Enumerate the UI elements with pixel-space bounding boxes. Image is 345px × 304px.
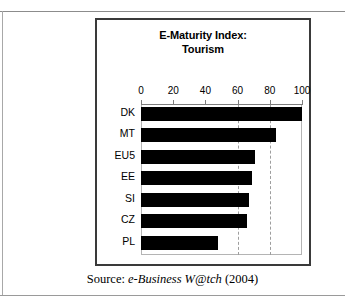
source-prefix: Source: xyxy=(87,272,125,286)
bar-si xyxy=(141,193,249,207)
source-year: (2004) xyxy=(225,272,258,286)
bar-ee xyxy=(141,171,252,185)
page-top-rule xyxy=(0,11,345,12)
bar-pl xyxy=(141,236,218,250)
category-label-si: SI xyxy=(125,192,135,204)
chart-title-line1: E-Maturity Index: xyxy=(159,29,247,41)
category-label-dk: DK xyxy=(120,106,135,118)
source-caption: Source: e-Business W@tch (2004) xyxy=(0,272,345,287)
x-tick-label: 80 xyxy=(264,85,275,96)
bar-eu5 xyxy=(141,150,255,164)
bar-row: EE xyxy=(141,168,302,189)
chart-figure-box: E-Maturity Index: Tourism 020406080100 D… xyxy=(95,18,311,266)
source-publication: e-Business W@tch xyxy=(128,272,222,286)
bar-row: PL xyxy=(141,233,302,254)
category-label-ee: EE xyxy=(121,170,135,182)
plot-wrapper: DKMTEU5EESICZPL xyxy=(141,104,302,256)
category-label-pl: PL xyxy=(122,235,135,247)
page-left-rule xyxy=(2,11,3,296)
bar-series: DKMTEU5EESICZPL xyxy=(141,104,302,254)
bar-row: MT xyxy=(141,125,302,146)
bar-cz xyxy=(141,214,247,228)
bar-mt xyxy=(141,128,276,142)
category-label-cz: CZ xyxy=(121,213,135,225)
chart-title: E-Maturity Index: Tourism xyxy=(97,28,309,56)
category-label-eu5: EU5 xyxy=(115,149,135,161)
bar-row: DK xyxy=(141,104,302,125)
bar-row: SI xyxy=(141,190,302,211)
bar-row: CZ xyxy=(141,211,302,232)
x-tick-label: 0 xyxy=(138,85,144,96)
x-axis-tick-labels: 020406080100 xyxy=(141,85,302,99)
x-tick-label: 40 xyxy=(200,85,211,96)
bar-dk xyxy=(141,107,302,121)
category-label-mt: MT xyxy=(120,127,135,139)
chart-title-line2: Tourism xyxy=(97,42,309,56)
plot-baseline xyxy=(141,254,302,255)
x-tick-label: 60 xyxy=(232,85,243,96)
page-bottom-rule xyxy=(0,295,345,296)
bar-row: EU5 xyxy=(141,147,302,168)
x-tick-label: 100 xyxy=(294,85,311,96)
x-tick-label: 20 xyxy=(168,85,179,96)
x-tick-mark xyxy=(302,100,303,105)
